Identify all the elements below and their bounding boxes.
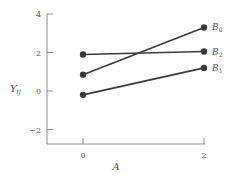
series-line bbox=[83, 68, 204, 95]
x-tick-label: 0 bbox=[80, 151, 85, 160]
x-axis-label: A bbox=[111, 161, 119, 172]
data-point bbox=[201, 65, 207, 71]
y-tick-label: 2 bbox=[36, 49, 41, 58]
interaction-plot: −202402 B0B2B1 A Yij bbox=[0, 0, 231, 178]
series-label: B2 bbox=[211, 47, 223, 58]
y-tick-label: 4 bbox=[36, 10, 41, 19]
data-point bbox=[201, 48, 207, 54]
data-point bbox=[201, 24, 207, 30]
series-line bbox=[83, 27, 204, 74]
y-axis-label: Yij bbox=[10, 83, 22, 96]
series-group: B0B2B1 bbox=[80, 22, 223, 98]
series-label: B1 bbox=[211, 63, 222, 74]
y-tick-label: 0 bbox=[36, 87, 41, 96]
data-point bbox=[80, 71, 86, 77]
x-tick-label: 2 bbox=[201, 151, 206, 160]
data-point bbox=[80, 51, 86, 57]
y-tick-label: −2 bbox=[29, 126, 41, 135]
series-line bbox=[83, 52, 204, 55]
series-label: B0 bbox=[211, 22, 223, 33]
plot-area: −202402 B0B2B1 A Yij bbox=[0, 0, 231, 178]
axes: −202402 bbox=[29, 10, 206, 160]
data-point bbox=[80, 92, 86, 98]
